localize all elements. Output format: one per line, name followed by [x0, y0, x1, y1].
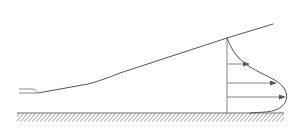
wall: [12, 113, 288, 122]
nozzle-upper-wall: [19, 89, 38, 93]
wall-jet-diagram: [0, 0, 300, 135]
wall-hatching: [12, 113, 288, 122]
velocity-arrow-lower: [227, 95, 286, 100]
velocity-arrows: [227, 62, 286, 100]
velocity-profile-curve: [227, 38, 287, 113]
velocity-arrow-middle: [227, 81, 277, 86]
velocity-arrow-upper: [227, 62, 250, 67]
arrowhead-icon: [279, 95, 286, 100]
nozzle: [19, 89, 38, 93]
